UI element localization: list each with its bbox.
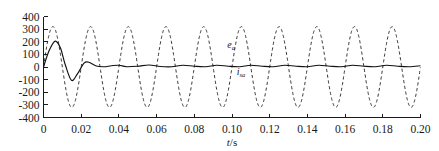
x-tick-label: 0.18 [373,123,393,135]
y-tick-label: -300 [18,99,39,111]
x-tick-label: 0 [41,123,47,135]
y-tick-label: -200 [18,86,39,98]
x-tick-label: 0.08 [184,123,204,135]
y-tick-label: 300 [22,23,40,35]
y-tick-label: 100 [22,48,40,60]
series-label-group: eaisa [227,39,245,78]
x-tick-label: 0.14 [297,123,317,135]
x-axis-label: t/s [227,136,237,148]
curve-group [44,27,421,108]
x-tick-label: 0.12 [260,123,280,135]
x-tick-group: 00.020.040.060.080.100.120.140.160.180.2… [41,114,431,135]
y-tick-label: 0 [34,61,40,73]
series-label-e-a: ea [227,39,235,51]
y-tick-label: -100 [18,74,39,86]
x-tick-label: 0.16 [335,123,355,135]
y-tick-label: 200 [22,36,40,48]
y-tick-label: 400 [22,11,40,23]
chart-figure: 4003002001000-100-200-300-400 00.020.040… [0,0,439,151]
chart-plot: 4003002001000-100-200-300-400 00.020.040… [0,0,439,151]
x-tick-label: 0.10 [222,123,242,135]
x-tick-label: 0.06 [147,123,167,135]
x-tick-label: 0.20 [410,123,430,135]
series-label-i-sa: isa [237,66,246,78]
x-tick-label: 0.04 [109,123,129,135]
y-tick-label: -400 [18,112,39,124]
x-tick-label: 0.02 [71,123,91,135]
